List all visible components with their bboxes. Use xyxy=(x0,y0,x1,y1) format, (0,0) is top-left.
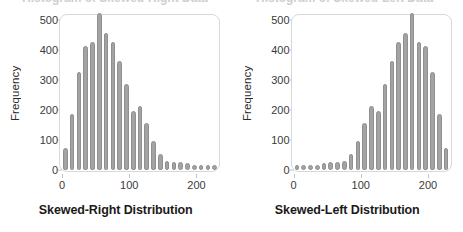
y-tick-label: 500 xyxy=(22,14,58,26)
bars-skewed-left xyxy=(291,14,452,170)
y-axis-ticks-left: 0100200300400500 xyxy=(20,0,58,196)
histogram-bar xyxy=(90,42,95,171)
histogram-bar xyxy=(437,114,442,171)
x-tick-mark xyxy=(361,174,362,178)
y-tick-label: 200 xyxy=(254,104,290,116)
histogram-bar xyxy=(97,13,102,170)
histogram-bar xyxy=(158,154,163,170)
x-axis-ticks-left: 0100200 xyxy=(59,174,220,196)
x-tick-label: 200 xyxy=(187,179,205,191)
histogram-bar xyxy=(342,161,347,170)
y-tick-label: 0 xyxy=(22,164,58,176)
panel-skewed-right: Frequency 0100200300400500 0100200 Skewe… xyxy=(0,0,232,232)
plot-area-skewed-left: Frequency 0100200300400500 0100200 xyxy=(232,0,463,196)
y-tick-label: 300 xyxy=(22,74,58,86)
histogram-bar xyxy=(383,84,388,171)
histogram-bar xyxy=(444,148,449,170)
histogram-bar xyxy=(423,46,428,170)
histogram-bar xyxy=(63,148,68,170)
histogram-bar xyxy=(410,13,415,170)
clipped-header-text: Histogram of Skewed-Right Data Histogram… xyxy=(0,0,463,7)
histogram-bar xyxy=(322,163,327,170)
histogram-bar xyxy=(295,165,300,171)
histogram-bar xyxy=(124,84,129,171)
y-tick-label: 400 xyxy=(254,44,290,56)
y-tick-label: 200 xyxy=(22,104,58,116)
histogram-bar xyxy=(369,106,374,170)
histogram-bar xyxy=(144,123,149,171)
panel-skewed-left: Frequency 0100200300400500 0100200 Skewe… xyxy=(232,0,463,232)
histogram-bar xyxy=(417,42,422,171)
x-tick-mark xyxy=(428,174,429,178)
histogram-bar xyxy=(396,42,401,171)
clipped-header-left: Histogram of Skewed-Right Data xyxy=(22,0,208,5)
histogram-panels: Frequency 0100200300400500 0100200 Skewe… xyxy=(0,0,463,232)
panel-title-skewed-right: Skewed-Right Distribution xyxy=(0,203,232,217)
x-tick-label: 100 xyxy=(120,179,138,191)
x-tick-label: 0 xyxy=(290,179,296,191)
x-axis-ticks-right: 0100200 xyxy=(291,174,452,196)
x-tick-label: 100 xyxy=(352,179,370,191)
histogram-bar xyxy=(192,165,197,171)
histogram-bar xyxy=(104,33,109,171)
histogram-bar xyxy=(212,165,217,171)
histogram-bar xyxy=(199,165,204,171)
x-tick-label: 0 xyxy=(59,179,65,191)
histogram-bar xyxy=(77,72,82,171)
histogram-bar xyxy=(185,163,190,170)
x-tick-mark xyxy=(62,174,63,178)
histogram-bar xyxy=(403,33,408,171)
y-tick-label: 100 xyxy=(22,134,58,146)
histogram-bar xyxy=(165,161,170,170)
x-tick-label: 200 xyxy=(419,179,437,191)
plot-area-skewed-right: Frequency 0100200300400500 0100200 xyxy=(0,0,232,196)
histogram-bar xyxy=(151,141,156,171)
histogram-bar xyxy=(70,114,75,171)
histogram-bar xyxy=(117,61,122,170)
x-tick-mark xyxy=(129,174,130,178)
histogram-bar xyxy=(356,141,361,171)
histogram-bar xyxy=(301,165,306,171)
histogram-bar xyxy=(178,162,183,170)
y-tick-label: 500 xyxy=(254,14,290,26)
bars-skewed-right xyxy=(59,14,220,170)
histogram-bar xyxy=(315,165,320,171)
y-tick-label: 0 xyxy=(254,164,290,176)
x-tick-mark xyxy=(196,174,197,178)
histogram-bar xyxy=(430,72,435,171)
clipped-header-right: Histogram of Skewed-Left Data xyxy=(256,0,433,5)
histogram-bar xyxy=(376,111,381,171)
histogram-bar xyxy=(349,154,354,170)
y-tick-label: 400 xyxy=(22,44,58,56)
histogram-bar xyxy=(335,162,340,171)
histogram-bar xyxy=(308,165,313,171)
histogram-bar xyxy=(83,46,88,170)
y-tick-label: 100 xyxy=(254,134,290,146)
y-tick-label: 300 xyxy=(254,74,290,86)
histogram-bar xyxy=(131,111,136,171)
histogram-bar xyxy=(328,162,333,170)
x-tick-mark xyxy=(294,174,295,178)
histogram-bar xyxy=(206,165,211,171)
histogram-bar xyxy=(362,123,367,171)
histogram-bar xyxy=(111,42,116,171)
histogram-bar xyxy=(390,61,395,170)
y-axis-ticks-right: 0100200300400500 xyxy=(252,0,290,196)
histogram-bar xyxy=(138,106,143,170)
panel-title-skewed-left: Skewed-Left Distribution xyxy=(232,203,463,217)
histogram-bar xyxy=(172,162,177,171)
